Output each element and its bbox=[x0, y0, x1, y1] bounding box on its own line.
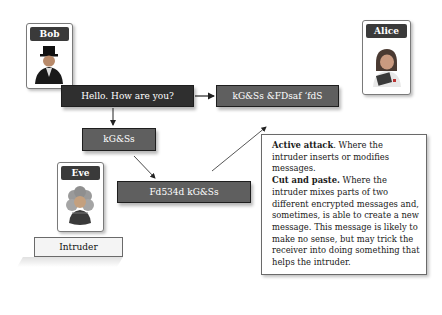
arrow-modified-to-alice bbox=[212, 127, 266, 171]
arrow-intercepted-to-modified bbox=[134, 156, 155, 178]
cut-and-paste-text: Where the intruder mixes parts of two di… bbox=[272, 175, 420, 267]
active-attack-title: Active attack bbox=[272, 140, 333, 150]
cut-and-paste-title: Cut and paste. bbox=[272, 175, 340, 185]
description-box: Active attack. Where the intruder insert… bbox=[261, 134, 427, 275]
